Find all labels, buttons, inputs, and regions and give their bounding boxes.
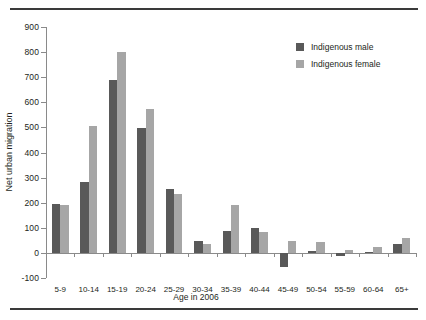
y-tick-label: 200 <box>25 198 39 208</box>
x-tick-label-25-29: 25-29 <box>164 285 184 294</box>
y-tick-mark <box>41 27 46 28</box>
y-tick-label: 900 <box>25 22 39 32</box>
x-tick-mark <box>274 253 275 257</box>
bottom-divider-rule <box>10 308 418 310</box>
x-tick-label-55-59: 55-59 <box>335 285 355 294</box>
y-axis-line <box>46 27 47 278</box>
legend-swatch-icon <box>296 60 304 68</box>
x-tick-mark <box>245 253 246 257</box>
y-tick-label: 300 <box>25 173 39 183</box>
x-tick-label-10-14: 10-14 <box>78 285 98 294</box>
bar-30-34-male <box>194 241 202 253</box>
y-tick-mark <box>41 278 46 279</box>
x-tick-label-35-39: 35-39 <box>221 285 241 294</box>
x-tick-mark <box>388 253 389 257</box>
bar-45-49-male <box>280 253 288 267</box>
bar-60-64-male <box>365 252 373 253</box>
y-tick-label: 700 <box>25 72 39 82</box>
bar-15-19-male <box>109 80 117 253</box>
x-tick-label-50-54: 50-54 <box>306 285 326 294</box>
y-axis-title: Net urban migration <box>4 112 14 191</box>
x-tick-mark <box>131 253 132 257</box>
y-tick-label: 500 <box>25 122 39 132</box>
y-tick-mark <box>41 153 46 154</box>
bar-65+-male <box>393 244 401 253</box>
y-tick-mark <box>41 203 46 204</box>
legend-item-female[interactable]: Indigenous female <box>296 59 380 69</box>
y-tick-label: 100 <box>25 223 39 233</box>
bar-40-44-female <box>259 232 267 253</box>
y-tick-label: 0 <box>34 248 39 258</box>
y-tick-label: 800 <box>25 47 39 57</box>
figure-container: Net urban migration Age in 2006 90080070… <box>0 0 426 320</box>
bar-50-54-female <box>316 242 324 253</box>
bar-10-14-male <box>80 182 88 253</box>
x-tick-mark <box>331 253 332 257</box>
y-tick-mark <box>41 102 46 103</box>
x-tick-mark <box>160 253 161 257</box>
bar-35-39-female <box>231 205 239 253</box>
x-tick-mark <box>217 253 218 257</box>
x-axis-line <box>46 253 416 254</box>
x-tick-mark <box>416 253 417 257</box>
legend-label: Indigenous male <box>311 42 373 52</box>
y-tick-mark <box>41 77 46 78</box>
x-tick-mark <box>302 253 303 257</box>
x-tick-label-5-9: 5-9 <box>54 285 66 294</box>
x-tick-mark <box>74 253 75 257</box>
y-tick-mark <box>41 52 46 53</box>
x-tick-label-30-34: 30-34 <box>192 285 212 294</box>
y-tick-label: 400 <box>25 148 39 158</box>
top-divider-rule <box>10 8 418 10</box>
legend-label: Indigenous female <box>311 59 380 69</box>
bar-35-39-male <box>223 231 231 253</box>
legend-item-male[interactable]: Indigenous male <box>296 42 380 52</box>
x-tick-label-65+: 65+ <box>395 285 409 294</box>
y-tick-mark <box>41 127 46 128</box>
bar-60-64-female <box>373 247 381 253</box>
bar-30-34-female <box>203 244 211 253</box>
legend-swatch-icon <box>296 43 304 51</box>
bar-5-9-male <box>52 204 60 252</box>
bar-50-54-male <box>308 251 316 253</box>
bar-65+-female <box>402 238 410 253</box>
x-tick-label-45-49: 45-49 <box>278 285 298 294</box>
x-tick-label-20-24: 20-24 <box>135 285 155 294</box>
x-tick-mark <box>188 253 189 257</box>
bar-15-19-female <box>117 52 125 253</box>
x-tick-mark <box>359 253 360 257</box>
bar-25-29-male <box>166 189 174 253</box>
x-tick-label-60-64: 60-64 <box>363 285 383 294</box>
bar-20-24-female <box>146 109 154 253</box>
bar-40-44-male <box>251 228 259 253</box>
y-tick-label: 600 <box>25 97 39 107</box>
x-tick-label-40-44: 40-44 <box>249 285 269 294</box>
bar-25-29-female <box>174 194 182 252</box>
y-tick-mark <box>41 228 46 229</box>
x-tick-mark <box>46 253 47 257</box>
bar-10-14-female <box>89 126 97 253</box>
y-tick-mark <box>41 178 46 179</box>
bar-55-59-male <box>336 253 344 256</box>
x-tick-mark <box>103 253 104 257</box>
bar-45-49-female <box>288 241 296 253</box>
bar-55-59-female <box>345 250 353 253</box>
x-tick-label-15-19: 15-19 <box>107 285 127 294</box>
bar-20-24-male <box>137 128 145 253</box>
bar-5-9-female <box>60 205 68 253</box>
chart-legend: Indigenous maleIndigenous female <box>296 42 380 76</box>
y-tick-label: -100 <box>22 273 39 283</box>
